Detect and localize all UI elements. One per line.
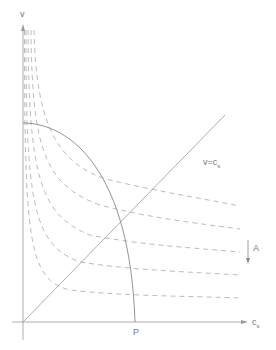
arrow-down-icon: [246, 258, 250, 264]
diagram-canvas: [0, 0, 276, 350]
solid-arc-curve: [23, 123, 135, 322]
diagonal-line: [23, 115, 225, 322]
arrow-label: A: [253, 244, 259, 253]
line-label: v=cs: [203, 158, 220, 169]
x-axis-arrow-icon: [241, 320, 248, 324]
y-axis-label: v: [20, 10, 25, 19]
dashed-curve-1: [34, 30, 240, 206]
point-label: P: [133, 328, 139, 337]
dashed-curve-4: [26, 30, 240, 275]
dashed-curve-3: [28, 30, 240, 252]
dashed-curve-2: [31, 30, 240, 229]
x-axis-label: cs: [252, 318, 260, 329]
y-axis-arrow-icon: [21, 24, 25, 31]
